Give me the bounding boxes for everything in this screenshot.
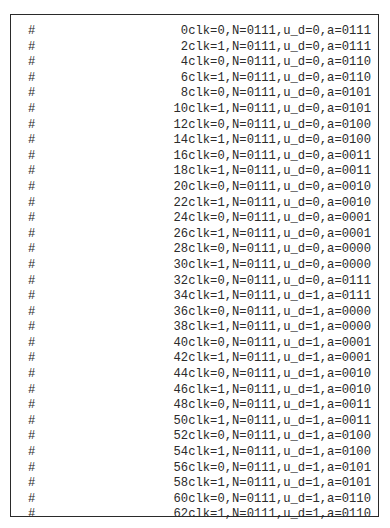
line-text: 22clk=1,N=0111,u_d=0,a=0010 — [174, 196, 371, 212]
output-line: #38clk=1,N=0111,u_d=1,a=0000 — [11, 320, 378, 336]
line-text: 4clk=0,N=0111,u_d=0,a=0110 — [181, 55, 371, 71]
output-line: #26clk=1,N=0111,u_d=0,a=0001 — [11, 227, 378, 243]
line-prefix: # — [28, 40, 35, 56]
line-text: 34clk=1,N=0111,u_d=1,a=0111 — [174, 289, 371, 305]
line-text: 40clk=0,N=0111,u_d=1,a=0001 — [174, 336, 371, 352]
line-text: 36clk=0,N=0111,u_d=1,a=0000 — [174, 305, 371, 321]
line-prefix: # — [28, 305, 35, 321]
line-text: 48clk=0,N=0111,u_d=1,a=0011 — [174, 398, 371, 414]
output-line: #22clk=1,N=0111,u_d=0,a=0010 — [11, 196, 378, 212]
line-prefix: # — [28, 274, 35, 290]
output-line: #24clk=0,N=0111,u_d=0,a=0001 — [11, 211, 378, 227]
line-prefix: # — [28, 164, 35, 180]
line-prefix: # — [28, 196, 35, 212]
output-line: #42clk=1,N=0111,u_d=1,a=0001 — [11, 351, 378, 367]
line-prefix: # — [28, 24, 35, 40]
line-prefix: # — [28, 102, 35, 118]
line-text: 0clk=0,N=0111,u_d=0,a=0111 — [181, 24, 371, 40]
line-text: 52clk=0,N=0111,u_d=1,a=0100 — [174, 429, 371, 445]
line-prefix: # — [28, 461, 35, 477]
output-line: #54clk=1,N=0111,u_d=1,a=0100 — [11, 445, 378, 461]
output-line: #18clk=1,N=0111,u_d=0,a=0011 — [11, 164, 378, 180]
line-text: 50clk=1,N=0111,u_d=1,a=0011 — [174, 414, 371, 430]
output-line: #32clk=0,N=0111,u_d=0,a=0111 — [11, 274, 378, 290]
line-prefix: # — [28, 383, 35, 399]
line-prefix: # — [28, 55, 35, 71]
line-text: 26clk=1,N=0111,u_d=0,a=0001 — [174, 227, 371, 243]
simulation-output-box: #0clk=0,N=0111,u_d=0,a=0111#2clk=1,N=011… — [10, 14, 379, 517]
output-line: #10clk=1,N=0111,u_d=0,a=0101 — [11, 102, 378, 118]
line-prefix: # — [28, 258, 35, 274]
line-text: 16clk=0,N=0111,u_d=0,a=0011 — [174, 149, 371, 165]
line-text: 14clk=1,N=0111,u_d=0,a=0100 — [174, 133, 371, 149]
line-text: 8clk=0,N=0111,u_d=0,a=0101 — [181, 86, 371, 102]
line-text: 12clk=0,N=0111,u_d=0,a=0100 — [174, 118, 371, 134]
output-line: #50clk=1,N=0111,u_d=1,a=0011 — [11, 414, 378, 430]
output-line: #2clk=1,N=0111,u_d=0,a=0111 — [11, 40, 378, 56]
line-text: 24clk=0,N=0111,u_d=0,a=0001 — [174, 211, 371, 227]
output-line: #46clk=1,N=0111,u_d=1,a=0010 — [11, 383, 378, 399]
line-prefix: # — [28, 86, 35, 102]
output-line: #20clk=0,N=0111,u_d=0,a=0010 — [11, 180, 378, 196]
output-line: #0clk=0,N=0111,u_d=0,a=0111 — [11, 24, 378, 40]
line-prefix: # — [28, 367, 35, 383]
line-text: 62clk=1,N=0111,u_d=1,a=0110 — [174, 507, 371, 523]
output-line: #8clk=0,N=0111,u_d=0,a=0101 — [11, 86, 378, 102]
line-prefix: # — [28, 507, 35, 523]
line-text: 2clk=1,N=0111,u_d=0,a=0111 — [181, 40, 371, 56]
line-text: 56clk=0,N=0111,u_d=1,a=0101 — [174, 461, 371, 477]
output-line: #14clk=1,N=0111,u_d=0,a=0100 — [11, 133, 378, 149]
line-prefix: # — [28, 445, 35, 461]
line-prefix: # — [28, 180, 35, 196]
line-prefix: # — [28, 398, 35, 414]
line-text: 30clk=1,N=0111,u_d=0,a=0000 — [174, 258, 371, 274]
line-prefix: # — [28, 429, 35, 445]
output-line: #48clk=0,N=0111,u_d=1,a=0011 — [11, 398, 378, 414]
output-line: #40clk=0,N=0111,u_d=1,a=0001 — [11, 336, 378, 352]
output-line: #36clk=0,N=0111,u_d=1,a=0000 — [11, 305, 378, 321]
line-prefix: # — [28, 227, 35, 243]
line-text: 20clk=0,N=0111,u_d=0,a=0010 — [174, 180, 371, 196]
line-text: 10clk=1,N=0111,u_d=0,a=0101 — [174, 102, 371, 118]
line-prefix: # — [28, 414, 35, 430]
line-text: 46clk=1,N=0111,u_d=1,a=0010 — [174, 383, 371, 399]
line-text: 18clk=1,N=0111,u_d=0,a=0011 — [174, 164, 371, 180]
line-prefix: # — [28, 133, 35, 149]
line-text: 6clk=1,N=0111,u_d=0,a=0110 — [181, 71, 371, 87]
output-line: #30clk=1,N=0111,u_d=0,a=0000 — [11, 258, 378, 274]
output-line: #44clk=0,N=0111,u_d=1,a=0010 — [11, 367, 378, 383]
output-line: #6clk=1,N=0111,u_d=0,a=0110 — [11, 71, 378, 87]
line-prefix: # — [28, 149, 35, 165]
line-text: 32clk=0,N=0111,u_d=0,a=0111 — [174, 274, 371, 290]
output-line: #52clk=0,N=0111,u_d=1,a=0100 — [11, 429, 378, 445]
line-prefix: # — [28, 289, 35, 305]
line-prefix: # — [28, 118, 35, 134]
line-text: 60clk=0,N=0111,u_d=1,a=0110 — [174, 492, 371, 508]
line-text: 28clk=0,N=0111,u_d=0,a=0000 — [174, 242, 371, 258]
line-prefix: # — [28, 71, 35, 87]
output-line: #62clk=1,N=0111,u_d=1,a=0110 — [11, 507, 378, 523]
line-prefix: # — [28, 476, 35, 492]
output-lines: #0clk=0,N=0111,u_d=0,a=0111#2clk=1,N=011… — [11, 24, 378, 523]
output-line: #56clk=0,N=0111,u_d=1,a=0101 — [11, 461, 378, 477]
output-line: #16clk=0,N=0111,u_d=0,a=0011 — [11, 149, 378, 165]
line-prefix: # — [28, 211, 35, 227]
line-prefix: # — [28, 492, 35, 508]
output-line: #28clk=0,N=0111,u_d=0,a=0000 — [11, 242, 378, 258]
line-text: 42clk=1,N=0111,u_d=1,a=0001 — [174, 351, 371, 367]
line-prefix: # — [28, 242, 35, 258]
output-line: #4clk=0,N=0111,u_d=0,a=0110 — [11, 55, 378, 71]
line-prefix: # — [28, 336, 35, 352]
line-text: 58clk=1,N=0111,u_d=1,a=0101 — [174, 476, 371, 492]
output-line: #34clk=1,N=0111,u_d=1,a=0111 — [11, 289, 378, 305]
line-text: 38clk=1,N=0111,u_d=1,a=0000 — [174, 320, 371, 336]
output-line: #12clk=0,N=0111,u_d=0,a=0100 — [11, 118, 378, 134]
output-line: #60clk=0,N=0111,u_d=1,a=0110 — [11, 492, 378, 508]
output-line: #58clk=1,N=0111,u_d=1,a=0101 — [11, 476, 378, 492]
line-text: 44clk=0,N=0111,u_d=1,a=0010 — [174, 367, 371, 383]
line-text: 54clk=1,N=0111,u_d=1,a=0100 — [174, 445, 371, 461]
line-prefix: # — [28, 351, 35, 367]
line-prefix: # — [28, 320, 35, 336]
